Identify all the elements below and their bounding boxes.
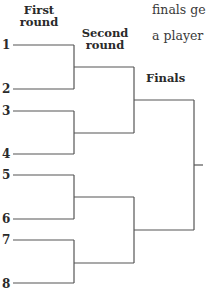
bracket-lines [0, 0, 203, 286]
